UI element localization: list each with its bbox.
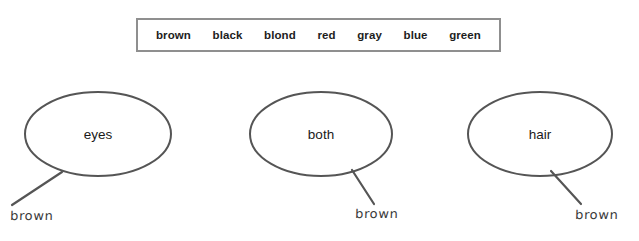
category-diagram: eyes both hair bbox=[0, 0, 639, 241]
leader-line-eyes bbox=[12, 172, 62, 205]
handwritten-answer-eyes[interactable]: brown bbox=[10, 209, 54, 223]
ellipse-label-eyes: eyes bbox=[84, 127, 113, 142]
handwritten-answer-both[interactable]: brown bbox=[355, 207, 399, 221]
handwritten-answer-hair[interactable]: brown bbox=[575, 208, 619, 222]
leader-line-hair bbox=[551, 171, 581, 204]
ellipse-label-both: both bbox=[308, 127, 334, 142]
leader-line-both bbox=[352, 170, 374, 204]
ellipse-label-hair: hair bbox=[529, 127, 552, 142]
